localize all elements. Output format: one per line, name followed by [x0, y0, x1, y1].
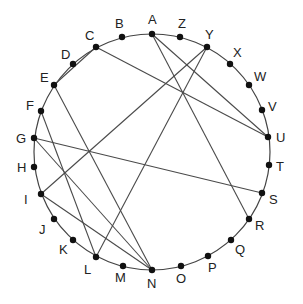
node-dot [70, 61, 76, 67]
node-dot [51, 82, 57, 88]
node-dot [93, 254, 99, 260]
node-label: H [17, 160, 26, 175]
node-e: E [40, 70, 57, 88]
node-l: L [84, 254, 99, 277]
node-label: Q [235, 242, 245, 257]
node-b: B [115, 16, 125, 40]
node-dot [259, 107, 265, 113]
node-dot [38, 108, 44, 114]
node-label: A [148, 12, 157, 27]
node-label: L [84, 262, 91, 277]
node-label: P [208, 260, 217, 275]
node-label: C [85, 28, 94, 43]
node-dot [246, 216, 252, 222]
node-label: F [26, 98, 34, 113]
node-k: K [59, 237, 76, 257]
node-label: K [59, 242, 68, 257]
node-label: W [254, 69, 267, 84]
node-dot [70, 237, 76, 243]
node-label: B [115, 16, 124, 31]
node-dot [51, 216, 57, 222]
node-x: X [227, 45, 242, 67]
node-y: Y [204, 27, 214, 50]
edge-layer [34, 34, 268, 270]
node-label: J [39, 222, 46, 237]
node-dot [149, 267, 155, 273]
node-label: Z [178, 16, 186, 31]
node-d: D [61, 47, 76, 67]
node-dot [205, 253, 211, 259]
node-label: G [16, 131, 26, 146]
node-label: U [276, 130, 285, 145]
node-o: O [176, 263, 186, 286]
edge-a-r [152, 34, 249, 219]
node-dot [228, 237, 234, 243]
node-q: Q [228, 237, 245, 257]
node-dot [177, 34, 183, 40]
node-label: V [268, 99, 277, 114]
node-dot [266, 162, 272, 168]
node-label: M [115, 270, 126, 285]
node-label: D [61, 47, 70, 62]
node-v: V [259, 99, 277, 114]
node-label: S [269, 192, 278, 207]
node-c: C [85, 28, 99, 50]
node-p: P [205, 253, 217, 275]
node-a: A [148, 12, 157, 37]
node-dot [178, 263, 184, 269]
node-label: X [233, 45, 242, 60]
node-label: N [147, 276, 156, 291]
node-dot [38, 191, 44, 197]
node-dot [259, 190, 265, 196]
node-dot [227, 61, 233, 67]
node-label: E [40, 70, 49, 85]
node-dot [265, 134, 271, 140]
node-label: O [176, 271, 186, 286]
node-i: I [24, 191, 44, 207]
node-s: S [259, 190, 278, 207]
node-label: Y [205, 27, 214, 42]
node-label: I [24, 192, 28, 207]
circular-graph-diagram: AZYXWVUTSRQPONMLKJIHGFEDCB [0, 0, 303, 304]
node-dot [246, 82, 252, 88]
node-z: Z [177, 16, 186, 40]
edge-y-i [41, 47, 207, 194]
node-dot [31, 135, 37, 141]
node-j: J [39, 216, 57, 237]
node-dot [31, 164, 37, 170]
node-dot [93, 44, 99, 50]
node-f: F [26, 98, 44, 114]
node-m: M [115, 263, 126, 285]
node-label: T [276, 159, 284, 174]
graph-canvas: AZYXWVUTSRQPONMLKJIHGFEDCB [0, 0, 303, 304]
node-r: R [246, 216, 265, 233]
node-dot [120, 263, 126, 269]
node-dot [119, 34, 125, 40]
node-dot [149, 31, 155, 37]
node-dot [204, 44, 210, 50]
node-w: W [246, 69, 267, 88]
node-label: R [255, 218, 264, 233]
